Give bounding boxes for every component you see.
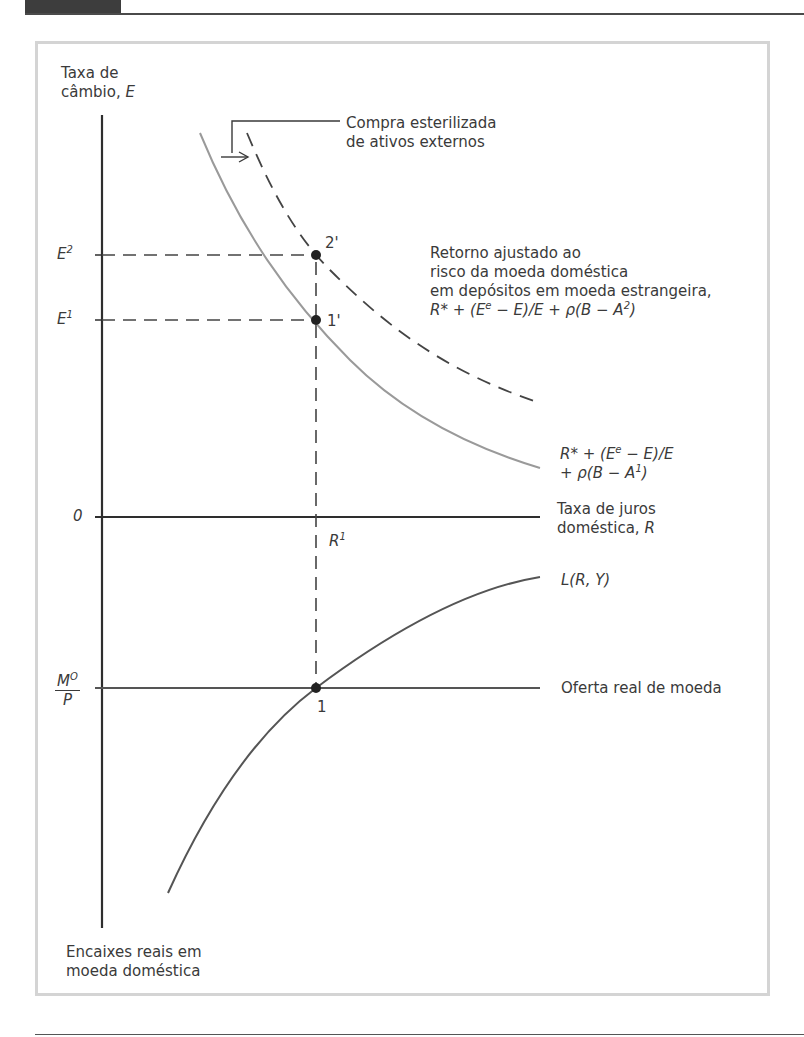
point-2prime bbox=[311, 250, 321, 260]
y-axis-label-line2: câmbio, bbox=[61, 83, 125, 101]
money-demand-curve bbox=[168, 577, 540, 893]
y-axis-var: E bbox=[125, 83, 134, 101]
point-label-2prime: 2' bbox=[325, 234, 339, 253]
bottom-axis-label: Encaixes reais em moeda doméstica bbox=[66, 943, 202, 981]
point-1 bbox=[311, 683, 321, 693]
point-1prime bbox=[311, 315, 321, 325]
point-label-1prime: 1' bbox=[327, 312, 341, 331]
money-demand-label: L(R, Y) bbox=[561, 571, 610, 590]
diagram-canvas bbox=[0, 0, 804, 1037]
money-supply-label: Oferta real de moeda bbox=[561, 679, 722, 698]
point-label-1: 1 bbox=[317, 698, 327, 717]
shift-annotation: Compra esterilizada de ativos externos bbox=[346, 114, 497, 152]
money-supply-tick-label: MO P bbox=[55, 672, 80, 709]
y-axis-label: Taxa de câmbio, E bbox=[61, 64, 135, 102]
tick-label-e2: E2 bbox=[57, 245, 73, 264]
tick-label-e1: E1 bbox=[57, 310, 73, 329]
x-axis-label: Taxa de juros doméstica, R bbox=[557, 500, 656, 538]
new-curve-label: Retorno ajustado ao risco da moeda domés… bbox=[430, 244, 712, 320]
tick-label-r1: R1 bbox=[329, 532, 346, 551]
old-curve-label: R* + (Ee − E)/E + ρ(B − A1) bbox=[560, 445, 673, 483]
origin-label: 0 bbox=[73, 507, 83, 526]
y-axis-label-line1: Taxa de bbox=[61, 64, 135, 83]
